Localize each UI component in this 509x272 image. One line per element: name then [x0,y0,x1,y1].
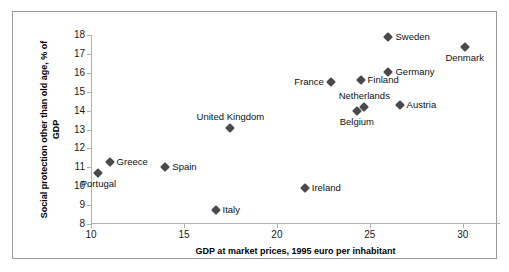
x-tick-label: 10 [85,230,96,240]
data-point-label: Netherlands [339,90,390,100]
data-point-label: France [294,78,324,88]
data-point-label: Belgium [340,117,374,127]
data-point-label: Austria [407,100,437,110]
x-tick-mark [91,224,92,228]
y-tick-label: 14 [74,106,85,116]
data-point-label: Greece [117,157,148,167]
screenshot-root: Social protection other than old age, % … [0,0,509,272]
data-point-marker [356,75,366,85]
x-tick-label: 30 [457,230,468,240]
data-point-label: Ireland [312,183,341,193]
x-tick-mark [370,224,371,228]
y-tick-label: 15 [74,87,85,97]
y-tick-label: 16 [74,68,85,78]
data-point-marker [326,77,336,87]
chart-frame: Social protection other than old age, % … [12,11,497,259]
data-point-label: Portugal [81,179,116,189]
y-tick-label: 8 [79,219,85,229]
y-tick-mark [87,54,91,55]
x-tick-mark [277,224,278,228]
y-axis-title: Social protection other than old age, % … [33,35,67,224]
data-point-label: Spain [172,163,196,173]
data-point-marker [225,123,235,133]
x-tick-label: 25 [364,230,375,240]
data-point-label: Finland [368,76,399,86]
y-axis-line [91,35,92,224]
x-axis-line [91,223,500,224]
data-point-marker [384,32,394,42]
data-point-label: Germany [395,67,434,77]
y-tick-label: 12 [74,143,85,153]
x-axis-title: GDP at market prices, 1995 euro per inha… [91,246,500,256]
data-point-marker [300,183,310,193]
y-tick-mark [87,205,91,206]
plot-area: 89101112131415161718 1015202530 Portugal… [91,35,500,224]
x-tick-label: 20 [271,230,282,240]
y-tick-label: 18 [74,30,85,40]
y-tick-mark [87,167,91,168]
x-tick-label: 15 [178,230,189,240]
y-tick-mark [87,92,91,93]
x-tick-mark [184,224,185,228]
data-point-marker [460,42,470,52]
x-tick-mark [463,224,464,228]
y-tick-mark [87,35,91,36]
data-point-marker [395,100,405,110]
y-tick-mark [87,111,91,112]
data-point-label: Italy [223,205,240,215]
data-point-marker [93,168,103,178]
data-point-label: United Kingdom [197,111,265,121]
data-point-label: Denmark [445,53,484,63]
y-tick-label: 17 [74,49,85,59]
y-tick-label: 9 [79,200,85,210]
y-tick-mark [87,148,91,149]
y-tick-label: 11 [75,162,85,172]
y-tick-mark [87,130,91,131]
data-point-marker [211,205,221,215]
y-tick-mark [87,73,91,74]
data-point-marker [105,157,115,167]
y-tick-label: 13 [74,125,85,135]
data-point-marker [160,162,170,172]
data-point-label: Sweden [395,32,429,42]
